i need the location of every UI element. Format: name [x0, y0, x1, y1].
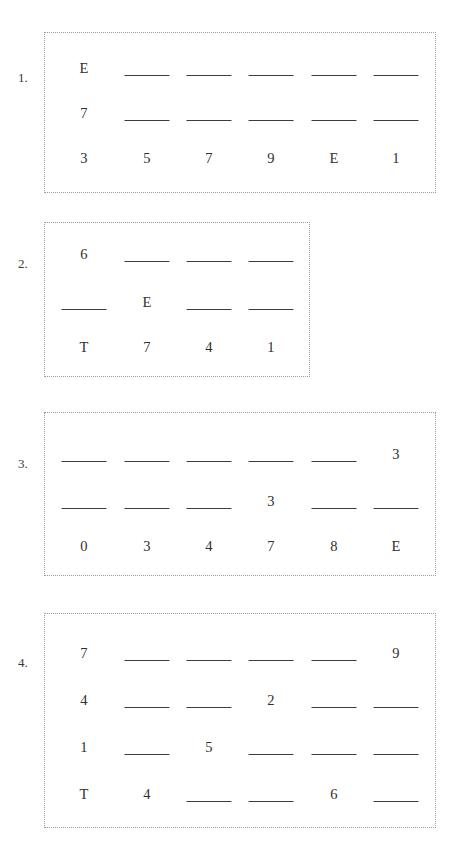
blank-cell[interactable] — [116, 726, 178, 756]
answer-blank-line[interactable] — [249, 801, 294, 802]
answer-blank-line[interactable] — [374, 707, 419, 708]
problem-4: 4.794215T46 — [0, 0, 460, 852]
blank-cell[interactable] — [303, 632, 365, 662]
digit-glyph: T — [53, 787, 115, 802]
digit-glyph: 5 — [178, 740, 240, 755]
digit-cell: 9 — [365, 632, 427, 662]
answer-blank-line[interactable] — [312, 707, 357, 708]
digit-cell: 2 — [240, 679, 302, 709]
blank-cell[interactable] — [365, 773, 427, 803]
answer-blank-line[interactable] — [125, 660, 170, 661]
digit-cell: T — [53, 773, 115, 803]
blank-cell[interactable] — [116, 632, 178, 662]
blank-cell[interactable] — [240, 726, 302, 756]
digit-glyph: 4 — [53, 693, 115, 708]
answer-blank-line[interactable] — [312, 754, 357, 755]
blank-cell[interactable] — [303, 726, 365, 756]
blank-cell[interactable] — [365, 679, 427, 709]
digit-cell: 4 — [53, 679, 115, 709]
digit-glyph: 1 — [53, 740, 115, 755]
answer-blank-line[interactable] — [125, 707, 170, 708]
digit-cell: 7 — [53, 632, 115, 662]
answer-blank-line[interactable] — [374, 754, 419, 755]
digit-cell: 5 — [178, 726, 240, 756]
digit-cell: 1 — [53, 726, 115, 756]
blank-cell[interactable] — [178, 679, 240, 709]
digit-glyph: 2 — [240, 693, 302, 708]
blank-cell[interactable] — [240, 632, 302, 662]
answer-blank-line[interactable] — [187, 707, 232, 708]
digit-glyph: 6 — [303, 787, 365, 802]
blank-cell[interactable] — [303, 679, 365, 709]
blank-cell[interactable] — [240, 773, 302, 803]
digit-cell: 6 — [303, 773, 365, 803]
problem-number-label: 4. — [18, 656, 28, 669]
answer-blank-line[interactable] — [249, 754, 294, 755]
worksheet-sheet: 1.E73579E12.6ET7413.3303478E4.794215T46 — [0, 0, 460, 852]
digit-glyph: 4 — [116, 787, 178, 802]
answer-blank-line[interactable] — [374, 801, 419, 802]
digit-cell: 4 — [116, 773, 178, 803]
blank-cell[interactable] — [178, 632, 240, 662]
answer-blank-line[interactable] — [312, 660, 357, 661]
answer-blank-line[interactable] — [187, 801, 232, 802]
blank-cell[interactable] — [116, 679, 178, 709]
blank-cell[interactable] — [178, 773, 240, 803]
blank-cell[interactable] — [365, 726, 427, 756]
answer-blank-line[interactable] — [249, 660, 294, 661]
answer-blank-line[interactable] — [125, 754, 170, 755]
digit-glyph: 9 — [365, 646, 427, 661]
answer-blank-line[interactable] — [187, 660, 232, 661]
digit-glyph: 7 — [53, 646, 115, 661]
